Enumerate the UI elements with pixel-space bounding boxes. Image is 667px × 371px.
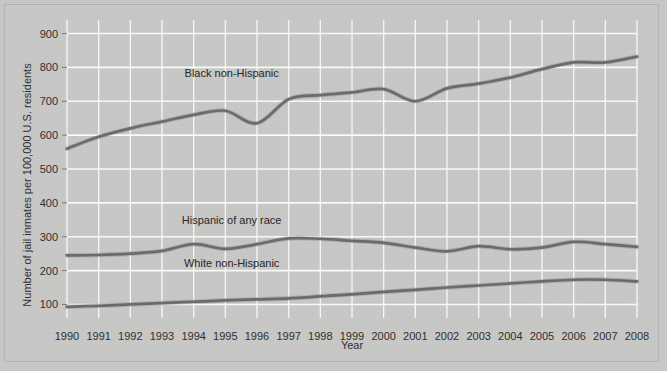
y-tick-label: 800 <box>40 61 58 73</box>
x-tick-label: 1991 <box>86 330 110 342</box>
y-tick-label: 300 <box>40 231 58 243</box>
y-tick-label: 400 <box>40 197 58 209</box>
x-tick-label: 2007 <box>593 330 617 342</box>
x-tick-label: 1996 <box>245 330 269 342</box>
x-tick-label: 2006 <box>561 330 585 342</box>
y-tick-label: 100 <box>40 298 58 310</box>
x-tick-label: 1993 <box>150 330 174 342</box>
y-tick-labels: 100200300400500600700800900 <box>40 28 67 311</box>
x-tick-label: 2008 <box>625 330 649 342</box>
x-tick-label: 1995 <box>213 330 237 342</box>
x-tick-label: 1998 <box>308 330 332 342</box>
y-tick-label: 900 <box>40 28 58 40</box>
chart-page: 100200300400500600700800900 199019911992… <box>0 0 667 371</box>
x-axis-title: Year <box>341 339 364 351</box>
series-label-black-non-hispanic: Black non-Hispanic <box>185 67 280 79</box>
series-annotations: Black non-HispanicHispanic of any raceWh… <box>182 67 282 269</box>
y-tick-label: 600 <box>40 129 58 141</box>
x-tick-label: 2005 <box>530 330 554 342</box>
y-tick-label: 200 <box>40 265 58 277</box>
x-tick-label: 2001 <box>403 330 427 342</box>
series-label-white-non-hispanic: White non-Hispanic <box>184 257 280 269</box>
y-axis-title: Number of jail inmates per 100,000 U.S. … <box>21 63 33 307</box>
x-tick-label: 2003 <box>466 330 490 342</box>
x-tick-label: 2000 <box>371 330 395 342</box>
x-tick-label: 1994 <box>181 330 205 342</box>
y-tick-label: 700 <box>40 95 58 107</box>
series-label-hispanic-of-any-race: Hispanic of any race <box>182 214 282 226</box>
y-tick-label: 500 <box>40 163 58 175</box>
x-tick-label: 2002 <box>435 330 459 342</box>
x-tick-label: 1992 <box>118 330 142 342</box>
x-tick-label: 1997 <box>276 330 300 342</box>
jail-inmates-line-chart: 100200300400500600700800900 199019911992… <box>0 0 667 371</box>
x-tick-label: 2004 <box>498 330 522 342</box>
x-tick-label: 1990 <box>55 330 79 342</box>
